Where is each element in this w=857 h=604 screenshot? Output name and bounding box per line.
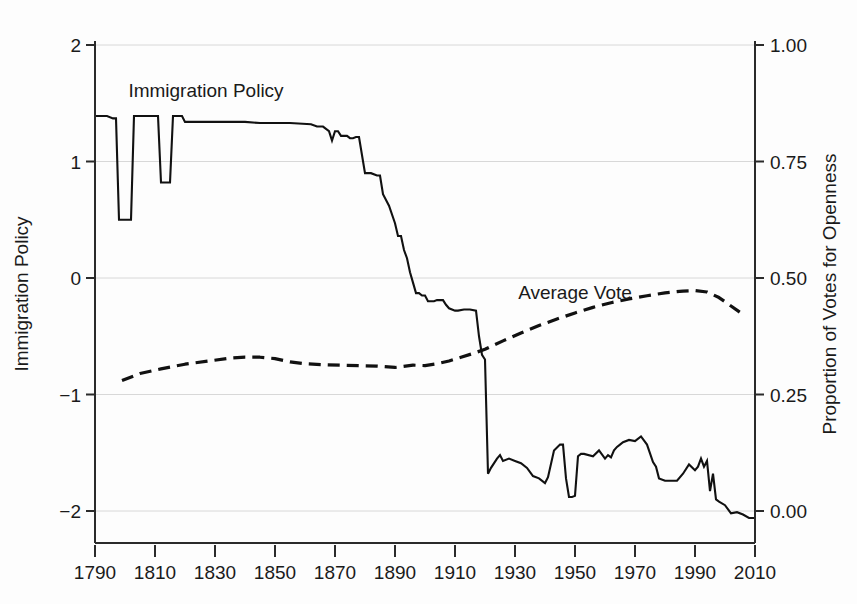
left-tick-label: −2: [59, 501, 81, 522]
left-tick-label: −1: [59, 385, 81, 406]
right-tick-label: 0.00: [770, 501, 807, 522]
right-axis-title: Proportion of Votes for Openness: [819, 154, 840, 435]
x-tick-label: 2010: [734, 562, 776, 583]
right-axis-ticks: 0.000.250.500.751.00: [755, 35, 807, 522]
series-annotations: Immigration PolicyAverage Vote: [128, 80, 631, 303]
left-tick-label: 1: [70, 152, 81, 173]
x-tick-label: 1970: [614, 562, 656, 583]
x-tick-label: 1910: [434, 562, 476, 583]
x-tick-label: 1870: [314, 562, 356, 583]
x-tick-label: 1790: [74, 562, 116, 583]
right-tick-label: 0.50: [770, 268, 807, 289]
x-tick-label: 1850: [254, 562, 296, 583]
immigration-policy-chart: −2−1012 0.000.250.500.751.00 17901810183…: [0, 0, 857, 604]
x-tick-label: 1810: [134, 562, 176, 583]
x-tick-label: 1930: [494, 562, 536, 583]
x-tick-label: 1830: [194, 562, 236, 583]
x-axis-ticks: 1790181018301850187018901910193019501970…: [74, 545, 776, 583]
average-vote-line: [122, 291, 743, 381]
left-axis-ticks: −2−1012: [59, 35, 95, 522]
left-tick-label: 2: [70, 35, 81, 56]
left-tick-label: 0: [70, 268, 81, 289]
data-series-layer: [95, 116, 755, 518]
x-tick-label: 1950: [554, 562, 596, 583]
gridlines: [95, 45, 755, 511]
right-tick-label: 0.75: [770, 152, 807, 173]
right-tick-label: 0.25: [770, 385, 807, 406]
right-tick-label: 1.00: [770, 35, 807, 56]
immigration-policy-line: [95, 116, 755, 518]
x-tick-label: 1990: [674, 562, 716, 583]
annotation-average-vote: Average Vote: [518, 282, 632, 303]
chart-figure: −2−1012 0.000.250.500.751.00 17901810183…: [0, 0, 857, 604]
annotation-immigration-policy: Immigration Policy: [128, 80, 284, 101]
left-axis-title: Immigration Policy: [11, 216, 32, 372]
x-tick-label: 1890: [374, 562, 416, 583]
